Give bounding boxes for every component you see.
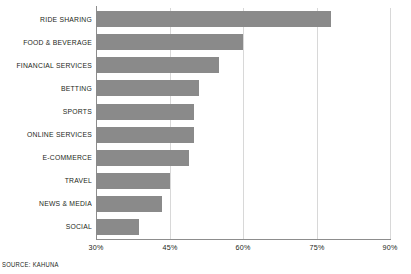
bar [96,57,219,73]
bar [96,173,170,189]
x-axis-tick-labels: 30%45%60%75%90% [0,243,411,255]
bar-row [96,147,390,170]
bar-chart: RIDE SHARINGFOOD & BEVERAGEFINANCIAL SER… [0,0,411,274]
category-label: BETTING [7,85,92,93]
x-tick-label: 75% [309,243,324,252]
x-tick-label: 30% [89,243,104,252]
bar [96,150,189,166]
bar-row [96,100,390,123]
bar-row [96,31,390,54]
bar-row [96,193,390,216]
x-tick-label: 60% [236,243,251,252]
x-axis-line [96,239,391,240]
bar [96,104,194,120]
category-label: TRAVEL [7,177,92,185]
category-label: SOCIAL [7,223,92,231]
bar-row [96,77,390,100]
category-label: FOOD & BEVERAGE [7,39,92,47]
bar-row [96,8,390,31]
bar-row [96,124,390,147]
category-label: ONLINE SERVICES [7,131,92,139]
bar-row [96,216,390,239]
x-tick-label: 90% [383,243,398,252]
category-label: SPORTS [7,108,92,116]
x-tick-label: 45% [162,243,177,252]
bar [96,219,139,235]
bar [96,11,331,27]
bar [96,196,162,212]
bar-row [96,54,390,77]
bar [96,127,194,143]
bar [96,80,199,96]
category-label: RIDE SHARING [7,16,92,24]
category-label: FINANCIAL SERVICES [7,62,92,70]
bar-row [96,170,390,193]
gridline [390,8,391,239]
plot-area [96,8,390,239]
category-axis-labels: RIDE SHARINGFOOD & BEVERAGEFINANCIAL SER… [0,8,92,239]
category-label: E-COMMERCE [7,154,92,162]
bar [96,34,243,50]
source-credit: SOURCE: KAHUNA [2,261,59,268]
category-label: NEWS & MEDIA [7,200,92,208]
